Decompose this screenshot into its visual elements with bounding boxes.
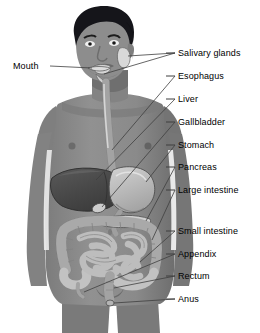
label-large-intestine: Large intestine [178, 186, 239, 195]
label-salivary-glands: Salivary glands [178, 49, 241, 58]
label-esophagus: Esophagus [178, 72, 224, 81]
label-stomach: Stomach [178, 141, 214, 150]
label-mouth: Mouth [13, 62, 39, 71]
anus-organ [106, 300, 114, 306]
label-small-intestine: Small intestine [178, 227, 238, 236]
label-appendix: Appendix [178, 250, 216, 259]
digestive-system-figure: Mouth Salivary glands Esophagus Liver Ga… [0, 0, 260, 333]
label-pancreas: Pancreas [178, 163, 217, 172]
label-rectum: Rectum [178, 272, 210, 281]
label-anus: Anus [178, 295, 199, 304]
label-liver: Liver [178, 95, 198, 104]
label-gallbladder: Gallbladder [178, 118, 225, 127]
